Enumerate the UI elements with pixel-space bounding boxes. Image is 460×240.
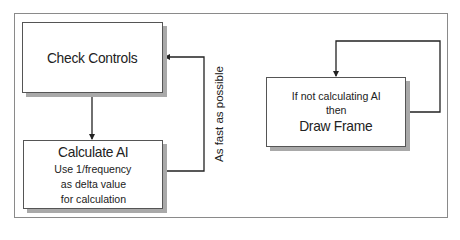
node-calculate-ai: Calculate AI Use 1/frequency as delta va…: [23, 140, 163, 209]
node-title: Draw Frame: [299, 117, 372, 135]
node-draw-frame: If not calculating AI then Draw Frame: [266, 77, 406, 147]
node-title: Check Controls: [47, 49, 137, 66]
edge-label-as-fast-as-possible: As fast as possible: [213, 66, 225, 162]
node-line: for calculation: [60, 192, 125, 207]
node-line: Use 1/frequency: [54, 162, 131, 177]
node-check-controls: Check Controls: [22, 22, 163, 93]
node-condition-then: then: [326, 103, 347, 117]
node-line: as delta value: [60, 177, 125, 192]
node-title: Calculate AI: [58, 143, 128, 161]
node-condition: If not calculating AI: [292, 89, 381, 103]
